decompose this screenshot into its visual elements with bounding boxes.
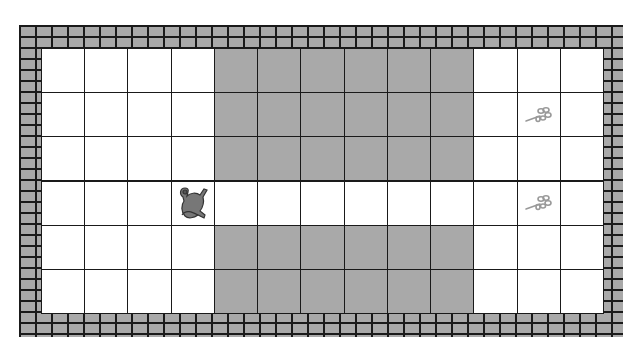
floor-cell (127, 48, 171, 93)
wall-cell (430, 48, 474, 93)
floor-cell (84, 269, 128, 314)
floor-cell (84, 48, 128, 93)
floor-cell (171, 225, 215, 270)
floor-cell (560, 136, 604, 181)
floor-cell (84, 92, 128, 137)
floor-cell (473, 136, 517, 181)
wall-cell (387, 48, 431, 93)
floor-cell (517, 225, 561, 270)
wall-cell (387, 225, 431, 270)
wall-cell (387, 136, 431, 181)
floor-cell (171, 269, 215, 314)
floor-cell (41, 92, 85, 137)
wall-cell (430, 92, 474, 137)
wall-cell (214, 92, 258, 137)
plant-sprig-icon (518, 182, 560, 225)
floor-cell (84, 181, 128, 226)
floor-cell (430, 181, 474, 226)
floor-cell (171, 48, 215, 93)
floor-cell (473, 92, 517, 137)
floor-cell (473, 269, 517, 314)
floor-cell (41, 181, 85, 226)
floor-cell (171, 181, 215, 226)
wall-cell (257, 48, 301, 93)
floor-cell (171, 136, 215, 181)
wall-cell (300, 48, 344, 93)
floor-cell (127, 225, 171, 270)
game-board (19, 25, 623, 337)
floor-cell (560, 225, 604, 270)
floor-cell (300, 181, 344, 226)
grid-world (41, 48, 603, 313)
wall-cell (300, 225, 344, 270)
floor-cell (560, 181, 604, 226)
wall-cell (344, 225, 388, 270)
floor-cell (127, 181, 171, 226)
floor-cell (127, 92, 171, 137)
floor-cell (387, 181, 431, 226)
wall-cell (257, 92, 301, 137)
wall-cell (430, 225, 474, 270)
wall-cell (300, 136, 344, 181)
wall-cell (387, 92, 431, 137)
wall-cell (300, 269, 344, 314)
floor-cell (560, 48, 604, 93)
wall-cell (257, 269, 301, 314)
wall-cell (214, 269, 258, 314)
wall-cell (430, 269, 474, 314)
floor-cell (517, 136, 561, 181)
floor-cell (84, 136, 128, 181)
floor-cell (517, 48, 561, 93)
floor-cell (560, 269, 604, 314)
floor-cell (41, 225, 85, 270)
wall-cell (430, 136, 474, 181)
floor-cell (171, 92, 215, 137)
floor-cell (41, 48, 85, 93)
floor-cell (127, 269, 171, 314)
wall-cell (214, 225, 258, 270)
floor-cell (214, 181, 258, 226)
wall-cell (344, 92, 388, 137)
floor-cell (560, 92, 604, 137)
floor-cell (257, 181, 301, 226)
floor-cell (517, 269, 561, 314)
floor-cell (41, 269, 85, 314)
wall-cell (344, 269, 388, 314)
wall-cell (300, 92, 344, 137)
wall-cell (344, 48, 388, 93)
floor-cell (473, 48, 517, 93)
floor-cell (84, 225, 128, 270)
wall-cell (214, 136, 258, 181)
wall-cell (344, 136, 388, 181)
floor-cell (41, 136, 85, 181)
floor-cell (473, 225, 517, 270)
floor-cell (127, 136, 171, 181)
floor-cell (344, 181, 388, 226)
wall-cell (387, 269, 431, 314)
wall-cell (257, 225, 301, 270)
floor-cell (517, 181, 561, 226)
creature-icon (172, 182, 214, 225)
wall-cell (214, 48, 258, 93)
floor-cell (473, 181, 517, 226)
floor-cell (517, 92, 561, 137)
plant-sprig-icon (518, 93, 560, 136)
wall-cell (257, 136, 301, 181)
